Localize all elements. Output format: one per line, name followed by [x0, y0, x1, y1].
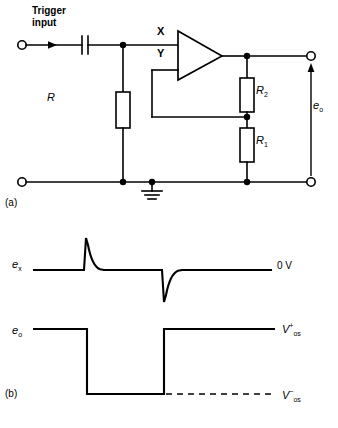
output-terminal-circle-top — [307, 52, 315, 60]
waveform-zero-volt-label: 0 V — [277, 260, 292, 271]
eo-measure-arrow-icon — [308, 63, 315, 72]
waveform-ex-label-sub: x — [18, 265, 22, 272]
waveform-vos-positive-label: V+os — [282, 320, 301, 339]
input-terminal-circle — [18, 41, 26, 49]
figure-container: Trigger input X Y R R2 R1 eo (a) (b) ex … — [0, 0, 338, 428]
waveform-ex-trace — [33, 238, 272, 302]
figure-caption-strip — [0, 419, 338, 428]
node-dot-bottom-left — [120, 179, 126, 185]
resistor-R-body — [116, 92, 130, 128]
resistor-R2-body — [240, 78, 254, 112]
resistor-R2-label-base: R — [256, 84, 264, 96]
resistor-R1-body — [240, 128, 254, 162]
circuit-output-voltage-sub: o — [319, 106, 323, 113]
circuit-and-waveform-drawing — [0, 0, 338, 428]
vos-negative-sup: − — [289, 388, 293, 395]
vos-negative-sub: os — [293, 396, 300, 403]
resistor-R1-label: R1 — [256, 135, 268, 150]
waveform-vos-negative-label: V−os — [282, 386, 301, 405]
amplifier-y-input-label: Y — [157, 48, 164, 59]
waveform-eo-trace — [33, 329, 275, 394]
vos-positive-sup: + — [289, 322, 293, 329]
resistor-R1-label-base: R — [256, 134, 264, 146]
input-direction-arrow-icon — [48, 41, 57, 49]
waveform-eo-label-sub: o — [18, 331, 22, 338]
trigger-input-label: Trigger input — [32, 5, 92, 28]
circuit-output-voltage-label: eo — [313, 100, 323, 115]
resistor-R2-label-sub: 2 — [264, 91, 268, 98]
waveform-eo-label: eo — [12, 325, 22, 340]
amplifier-triangle — [178, 31, 222, 80]
input-terminal-circle-bottom — [18, 178, 26, 186]
part-a-label: (a) — [5, 197, 17, 208]
resistor-R1-label-sub: 1 — [264, 141, 268, 148]
amplifier-x-input-label: X — [157, 26, 164, 37]
part-b-label: (b) — [5, 388, 17, 399]
resistor-R2-label: R2 — [256, 85, 268, 100]
waveform-ex-label: ex — [12, 259, 22, 274]
vos-positive-sub: os — [293, 330, 300, 337]
node-dot-bottom-right — [244, 179, 250, 185]
output-terminal-circle-bottom — [307, 178, 315, 186]
resistor-R-label: R — [47, 92, 55, 103]
